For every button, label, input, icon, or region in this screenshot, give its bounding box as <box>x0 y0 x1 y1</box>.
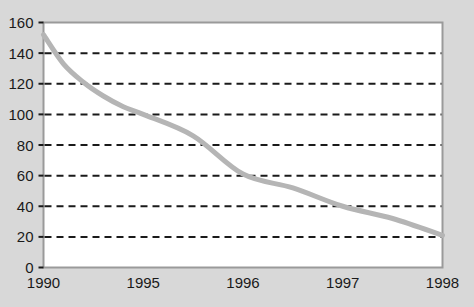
y-axis-tick-label: 120 <box>8 75 33 92</box>
y-axis-tick-label: 60 <box>17 167 34 184</box>
line-chart: 020406080100120140160 199019951996199719… <box>0 0 474 307</box>
x-axis-tick-label: 1990 <box>27 274 60 291</box>
chart-container: 020406080100120140160 199019951996199719… <box>0 0 474 307</box>
x-axis-tick-label: 1995 <box>127 274 160 291</box>
y-axis-tick-label: 40 <box>17 198 34 215</box>
x-axis-tick-label: 1997 <box>326 274 359 291</box>
y-axis-tick-label: 20 <box>17 228 34 245</box>
x-axis-tick-label: 1996 <box>226 274 259 291</box>
x-axis-tick-label: 1998 <box>426 274 459 291</box>
y-axis-tick-label: 140 <box>8 45 33 62</box>
y-axis-tick-label: 160 <box>8 14 33 31</box>
y-axis-tick-label: 100 <box>8 106 33 123</box>
y-axis-tick-label: 80 <box>17 137 34 154</box>
